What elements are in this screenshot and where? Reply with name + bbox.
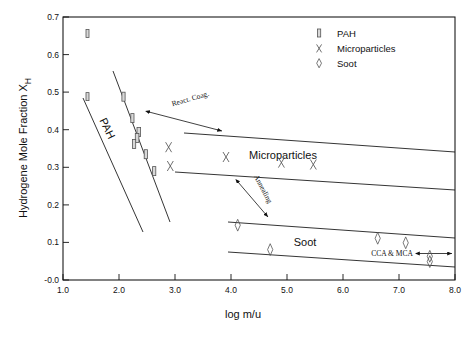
soot-band-label: Soot bbox=[294, 236, 317, 248]
legend: PAH Microparticles Soot bbox=[317, 28, 396, 69]
legend-label-pah: PAH bbox=[337, 28, 356, 39]
y-axis-title: Hydrogene Mole Fraction XH bbox=[17, 78, 33, 218]
legend-label-microparticles: Microparticles bbox=[337, 43, 396, 54]
y-axis-ticks bbox=[63, 17, 69, 280]
annotation-react-coag: React. Coag. bbox=[149, 89, 222, 131]
y-tick-label: 0.3 bbox=[47, 162, 59, 172]
x-axis-tick-labels: 1.0 2.0 3.0 4.0 5.0 6.0 7.0 8.0 bbox=[57, 285, 461, 295]
chart-canvas: -0.0 0.1 0.2 0.3 0.4 0.5 0.6 0.7 1.0 2.0… bbox=[0, 0, 476, 339]
x-tick-label: 5.0 bbox=[281, 285, 293, 295]
figure-container: -0.0 0.1 0.2 0.3 0.4 0.5 0.6 0.7 1.0 2.0… bbox=[0, 0, 476, 339]
y-axis-title-text: Hydrogene Mole Fraction X bbox=[17, 83, 29, 218]
x-tick-label: 6.0 bbox=[337, 285, 349, 295]
annealing-label: Annealing bbox=[252, 173, 275, 205]
series-soot-markers bbox=[235, 219, 432, 267]
x-tick-label: 3.0 bbox=[169, 285, 181, 295]
series-pah-markers bbox=[86, 30, 156, 176]
x-axis-title: log m/u bbox=[225, 308, 261, 320]
y-tick-label: 0.6 bbox=[47, 50, 59, 60]
y-axis-tick-labels: -0.0 0.1 0.2 0.3 0.4 0.5 0.6 0.7 bbox=[44, 12, 59, 285]
soot-band bbox=[228, 222, 455, 267]
x-tick-label: 4.0 bbox=[225, 285, 237, 295]
x-axis-ticks bbox=[63, 274, 455, 280]
x-tick-label: 7.0 bbox=[393, 285, 405, 295]
react-coag-arrow bbox=[149, 112, 222, 131]
y-tick-label: 0.7 bbox=[47, 12, 59, 22]
x-tick-label: 1.0 bbox=[57, 285, 69, 295]
x-tick-label: 2.0 bbox=[113, 285, 125, 295]
legend-label-soot: Soot bbox=[337, 58, 357, 69]
y-tick-label: -0.0 bbox=[44, 275, 59, 285]
annotation-annealing: Annealing bbox=[238, 173, 275, 217]
y-tick-label: 0.1 bbox=[47, 237, 59, 247]
pah-band bbox=[83, 71, 170, 232]
annotation-cca-mca: CCA & MCA bbox=[371, 249, 452, 258]
cca-mca-label: CCA & MCA bbox=[371, 249, 413, 258]
y-tick-label: 0.2 bbox=[47, 200, 59, 210]
legend-marker-diamond bbox=[317, 59, 322, 68]
legend-marker-rectangle bbox=[318, 29, 321, 37]
svg-text:Hydrogene Mole Fraction XH: Hydrogene Mole Fraction XH bbox=[17, 78, 33, 218]
y-tick-label: 0.5 bbox=[47, 87, 59, 97]
y-axis-title-subscript: H bbox=[23, 78, 33, 84]
y-tick-label: 0.4 bbox=[47, 125, 59, 135]
react-coag-label: React. Coag. bbox=[171, 89, 211, 108]
x-tick-label: 8.0 bbox=[449, 285, 461, 295]
legend-marker-x bbox=[317, 44, 322, 52]
